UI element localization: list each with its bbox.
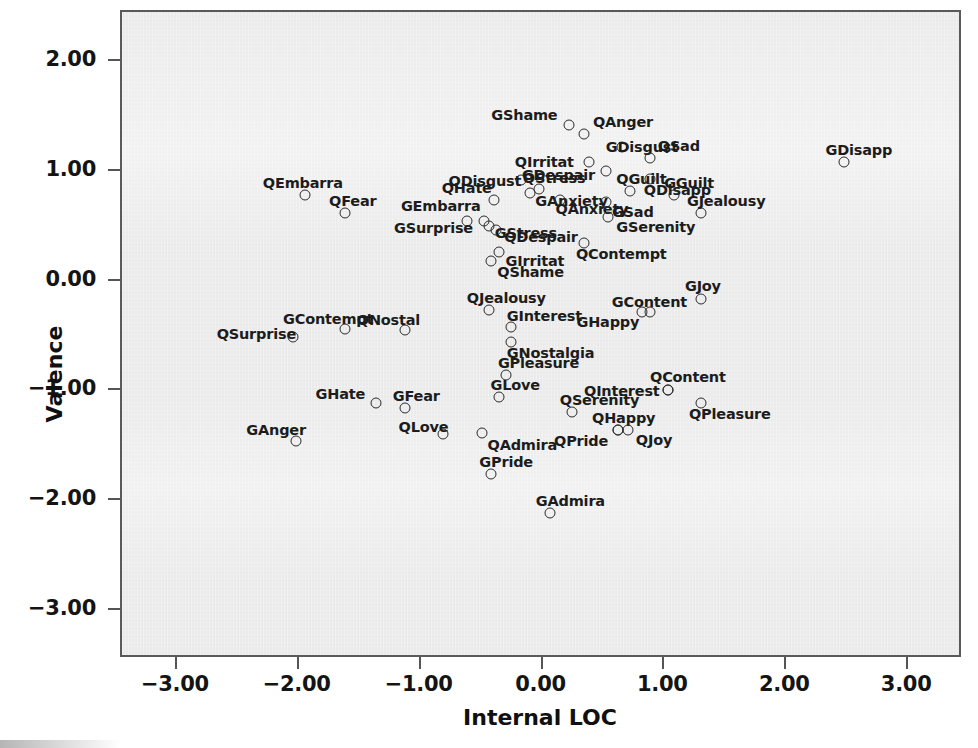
x-axis-tick xyxy=(175,657,177,669)
data-point-label: QHate xyxy=(442,181,492,196)
data-point[interactable] xyxy=(622,424,633,435)
data-point-label: GAdmira xyxy=(536,494,605,509)
data-point-label: GShame xyxy=(491,108,557,123)
y-axis-tick xyxy=(108,388,120,390)
data-point-label: QJoy xyxy=(636,433,672,448)
y-axis-tick xyxy=(108,279,120,281)
data-point-label: GContent xyxy=(612,295,687,310)
y-axis-tick xyxy=(108,498,120,500)
data-points-layer: GShameQAngerGDisappQIrritatGDisgustQSadQ… xyxy=(122,12,959,655)
data-point-label: GFear xyxy=(393,389,440,404)
data-point[interactable] xyxy=(340,207,351,218)
data-point-label: QContempt xyxy=(576,247,667,262)
data-point-label: QNostal xyxy=(357,313,420,328)
data-point-label: QDespair xyxy=(504,230,578,245)
data-point-label: GSad xyxy=(612,205,654,220)
data-point-label: GHate xyxy=(316,387,366,402)
data-point[interactable] xyxy=(370,398,381,409)
y-axis-tick xyxy=(108,59,120,61)
x-axis-title: Internal LOC xyxy=(463,705,617,730)
data-point-label: GPleasure xyxy=(498,356,579,371)
data-point-label: GAnger xyxy=(246,423,306,438)
data-point-label: GDespair xyxy=(522,168,595,183)
data-point[interactable] xyxy=(625,185,636,196)
data-point[interactable] xyxy=(491,225,502,236)
y-axis-tick-label: 2.00 xyxy=(45,47,96,71)
x-axis-tick xyxy=(541,657,543,669)
data-point[interactable] xyxy=(299,190,310,201)
x-axis-tick-label: −1.00 xyxy=(385,672,453,696)
data-point[interactable] xyxy=(578,128,589,139)
data-point[interactable] xyxy=(566,407,577,418)
data-point-label: GEmbarra xyxy=(401,199,481,214)
data-point[interactable] xyxy=(525,187,536,198)
data-point-label: QShame xyxy=(497,265,564,280)
data-point-label: QAdmira xyxy=(488,438,558,453)
data-point-label: GLove xyxy=(491,378,540,393)
data-point-label: QEmbarra xyxy=(263,176,343,191)
y-axis-tick-label: −3.00 xyxy=(28,596,96,620)
data-point-label: GGuilt xyxy=(664,176,714,191)
x-axis-tick-label: −3.00 xyxy=(141,672,209,696)
data-point-label: QPride xyxy=(554,434,608,449)
data-point[interactable] xyxy=(486,255,497,266)
data-point-label: GPride xyxy=(479,455,533,470)
data-point-label: GDisapp xyxy=(826,143,893,158)
data-point[interactable] xyxy=(663,385,674,396)
data-point[interactable] xyxy=(669,190,680,201)
data-point-label: QAnger xyxy=(593,115,653,130)
data-point[interactable] xyxy=(488,194,499,205)
x-axis-tick xyxy=(784,657,786,669)
data-point[interactable] xyxy=(493,391,504,402)
plot-area: GShameQAngerGDisappQIrritatGDisgustQSadQ… xyxy=(120,10,961,657)
data-point-label: GSurprise xyxy=(394,221,473,236)
x-axis-tick-label: 2.00 xyxy=(759,672,810,696)
y-axis-tick-label: 0.00 xyxy=(45,267,96,291)
x-axis-tick xyxy=(297,657,299,669)
data-point[interactable] xyxy=(603,212,614,223)
data-point[interactable] xyxy=(486,468,497,479)
data-point[interactable] xyxy=(644,152,655,163)
data-point-label: QLove xyxy=(399,420,449,435)
y-axis-tick xyxy=(108,169,120,171)
data-point-label: QHappy xyxy=(592,411,655,426)
data-point-label: QContent xyxy=(650,370,726,385)
data-point-label: QSerenity xyxy=(560,393,639,408)
page-edge-artifact xyxy=(0,740,120,748)
x-axis-tick-label: 0.00 xyxy=(515,672,566,696)
data-point[interactable] xyxy=(600,196,611,207)
data-point[interactable] xyxy=(544,508,555,519)
data-point-label: QFear xyxy=(329,194,376,209)
data-point[interactable] xyxy=(399,402,410,413)
x-axis-tick xyxy=(906,657,908,669)
data-point[interactable] xyxy=(483,305,494,316)
x-axis-tick xyxy=(662,657,664,669)
data-point[interactable] xyxy=(564,119,575,130)
data-point[interactable] xyxy=(476,428,487,439)
data-point-label: QSad xyxy=(658,139,700,154)
data-point-label: GJealousy xyxy=(687,194,765,209)
data-point[interactable] xyxy=(695,207,706,218)
data-point-label: QPleasure xyxy=(689,407,771,422)
data-point-label: GSerenity xyxy=(616,220,695,235)
x-axis-tick xyxy=(419,657,421,669)
data-point-label: QSurprise xyxy=(217,327,296,342)
x-axis-tick-label: −2.00 xyxy=(263,672,331,696)
y-axis-tick-label: 1.00 xyxy=(45,157,96,181)
data-point-label: QJealousy xyxy=(467,291,546,306)
data-point[interactable] xyxy=(838,157,849,168)
data-point-label: GInterest xyxy=(507,309,582,324)
data-point[interactable] xyxy=(695,294,706,305)
y-axis-tick-label: −2.00 xyxy=(28,486,96,510)
x-axis-tick-label: 1.00 xyxy=(637,672,688,696)
data-point-label: GHappy xyxy=(576,315,639,330)
data-point[interactable] xyxy=(478,216,489,227)
data-point[interactable] xyxy=(600,166,611,177)
y-axis-title: Valence xyxy=(42,326,67,423)
x-axis-tick-label: 3.00 xyxy=(881,672,932,696)
scatter-plot-figure: GShameQAngerGDisappQIrritatGDisgustQSadQ… xyxy=(0,0,978,748)
data-point[interactable] xyxy=(613,424,624,435)
y-axis-tick xyxy=(108,608,120,610)
data-point-label: GJoy xyxy=(685,279,721,294)
